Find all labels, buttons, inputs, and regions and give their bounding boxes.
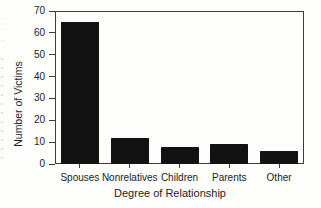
- y-tick-label: 10: [23, 136, 45, 148]
- y-tick: [49, 164, 55, 165]
- x-axis-title: Degree of Relationship: [114, 187, 226, 199]
- x-tick: [79, 164, 80, 168]
- y-tick-label: 40: [23, 71, 45, 83]
- x-tick-label-spouses: Spouses: [60, 172, 99, 184]
- y-tick-label: 70: [23, 5, 45, 17]
- x-tick: [229, 164, 230, 168]
- x-tick-label-other: Other: [267, 172, 292, 184]
- x-tick-label-children: Children: [161, 172, 198, 184]
- scan-artifact: [1, 58, 3, 163]
- y-tick-label: 50: [23, 49, 45, 61]
- y-tick: [49, 98, 55, 99]
- x-tick-label-parents: Parents: [212, 172, 246, 184]
- y-tick: [49, 142, 55, 143]
- y-tick-label: 0: [23, 158, 45, 170]
- y-tick-label: 30: [23, 92, 45, 104]
- bar-spouses: [61, 22, 99, 164]
- y-tick: [49, 76, 55, 77]
- bar-other: [260, 151, 298, 164]
- bar-children: [161, 147, 199, 164]
- y-tick: [49, 32, 55, 33]
- y-tick: [49, 120, 55, 121]
- y-tick-label: 60: [23, 27, 45, 39]
- y-tick-label: 20: [23, 114, 45, 126]
- bar-parents: [210, 144, 248, 164]
- x-tick: [129, 164, 130, 168]
- x-tick: [179, 164, 180, 168]
- x-tick-label-nonrelatives: Nonrelatives: [102, 172, 158, 184]
- bar-chart-figure: Number of Victims Degree of Relationship…: [0, 0, 321, 208]
- y-tick: [49, 54, 55, 55]
- scan-artifact-speck: [2, 18, 4, 44]
- y-tick: [49, 11, 55, 12]
- bar-nonrelatives: [111, 138, 149, 164]
- x-tick: [279, 164, 280, 168]
